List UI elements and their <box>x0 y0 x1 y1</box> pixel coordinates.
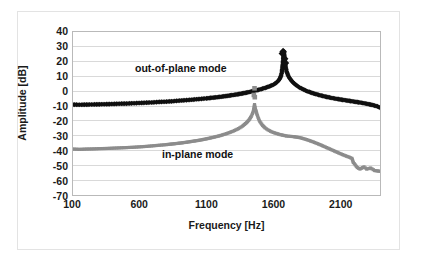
y-axis-tick-labels: 403020100-10-20-30-40-50-60-70 <box>22 31 68 196</box>
x-axis-tick-label: 600 <box>109 199 169 210</box>
y-axis-tick-label: 10 <box>24 71 68 82</box>
x-axis-tick-label: 2100 <box>311 199 371 210</box>
series-out-of-plane-mode <box>73 48 380 110</box>
y-axis-tick-label: -50 <box>24 161 68 172</box>
x-axis-tick-label: 1600 <box>244 199 304 210</box>
y-axis-tick-label: -60 <box>24 176 68 187</box>
y-axis-tick-label: 20 <box>24 56 68 67</box>
chart-figure: 403020100-10-20-30-40-50-60-70 Amplitude… <box>0 0 422 263</box>
x-axis-tick-label: 100 <box>42 199 102 210</box>
y-axis-tick-label: -20 <box>24 116 68 127</box>
y-axis-tick-label: -10 <box>24 101 68 112</box>
annotation-in-plane-mode: in-plane mode <box>162 148 233 160</box>
y-axis-tick-label: 40 <box>24 26 68 37</box>
y-axis-tick-label: -40 <box>24 146 68 157</box>
y-axis-tick-label: -30 <box>24 131 68 142</box>
data-series-layer <box>73 32 380 195</box>
annotation-out-of-plane-mode: out-of-plane mode <box>135 62 227 74</box>
y-axis-tick-label: 30 <box>24 41 68 52</box>
x-axis-title: Frequency [Hz] <box>72 219 381 231</box>
y-axis-title: Amplitude [dB] <box>16 43 28 163</box>
x-axis-tick-label: 1100 <box>176 199 236 210</box>
x-axis-tick-labels: 100600110016002100 <box>72 199 381 215</box>
plot-area <box>72 31 381 196</box>
y-axis-tick-label: 0 <box>24 86 68 97</box>
